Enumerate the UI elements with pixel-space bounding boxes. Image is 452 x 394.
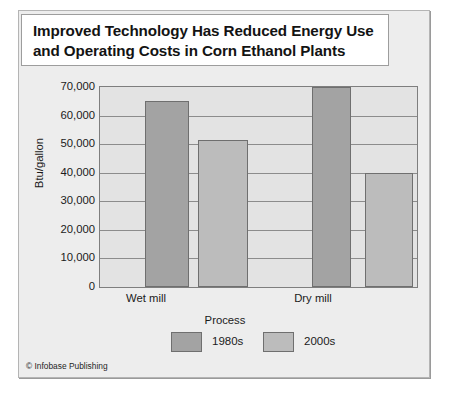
y-axis-ticks: 70,000 60,000 50,000 40,000 30,000 20,00…: [31, 86, 95, 286]
y-tick-label: 50,000: [35, 138, 95, 149]
page-title: Improved Technology Has Reduced Energy U…: [33, 21, 377, 60]
title-line-1: Improved Technology Has Reduced Energy U…: [33, 21, 377, 41]
chart-card: Improved Technology Has Reduced Energy U…: [18, 10, 430, 378]
legend-swatch-2000s: [263, 332, 294, 352]
bar-dry-mill-2000s: [365, 173, 413, 287]
y-tick-label: 20,000: [35, 224, 95, 235]
x-tick-label-dry-mill: Dry mill: [258, 292, 368, 304]
plot-area: [99, 86, 418, 288]
y-tick-label: 0: [35, 281, 95, 292]
y-tick-label: 40,000: [35, 167, 95, 178]
legend-swatch-1980s: [171, 332, 202, 352]
chart-title-box: Improved Technology Has Reduced Energy U…: [21, 14, 389, 66]
x-axis-title: Process: [19, 314, 431, 326]
y-tick-label: 70,000: [35, 81, 95, 92]
copyright-credit: © Infobase Publishing: [26, 361, 108, 371]
y-tick-label: 30,000: [35, 195, 95, 206]
title-line-2: and Operating Costs in Corn Ethanol Plan…: [33, 41, 377, 61]
y-tick-label: 10,000: [35, 252, 95, 263]
bar-dry-mill-1980s: [312, 87, 351, 287]
y-tick-label: 60,000: [35, 110, 95, 121]
chart-legend: 1980s 2000s: [19, 331, 431, 357]
legend-label-2000s: 2000s: [304, 335, 335, 347]
bar-wet-mill-2000s: [198, 140, 248, 287]
bar-wet-mill-1980s: [145, 101, 189, 287]
figure-root: Improved Technology Has Reduced Energy U…: [0, 0, 452, 394]
legend-label-1980s: 1980s: [212, 335, 243, 347]
x-tick-label-wet-mill: Wet mill: [91, 292, 201, 304]
